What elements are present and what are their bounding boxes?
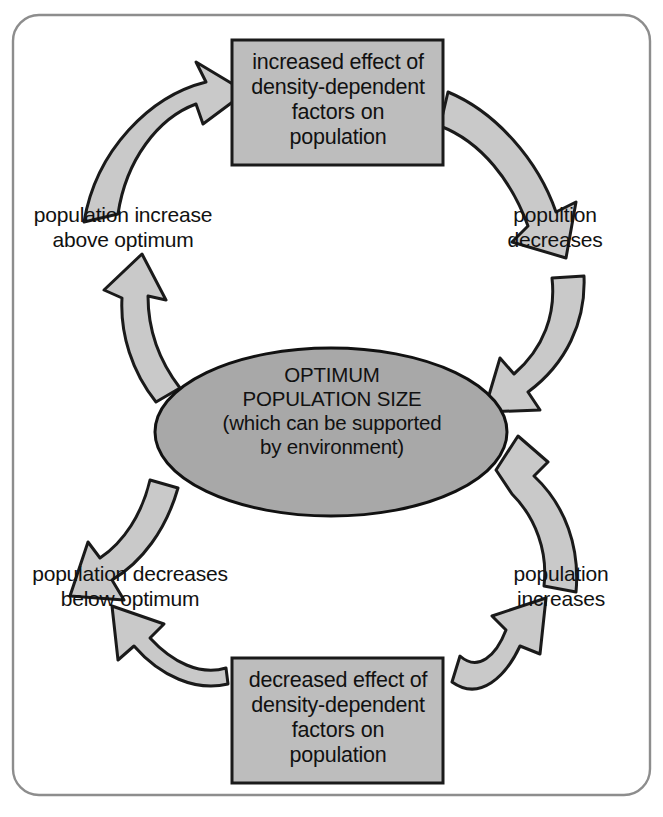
diagram-graphics [0,0,663,817]
box-bottom-shape [232,658,443,783]
optimum-population-ellipse [155,348,507,516]
diagram-canvas: increased effect of density-dependent fa… [0,0,663,817]
box-top-shape [232,40,443,165]
